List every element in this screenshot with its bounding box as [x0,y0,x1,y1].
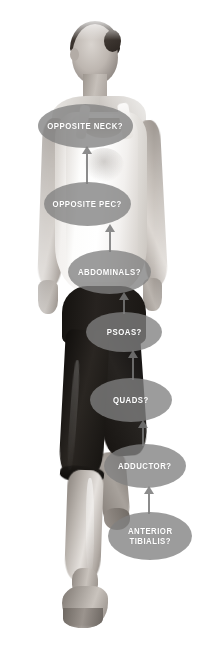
arrow-head-icon [105,224,115,232]
bubble-anterior-tibialis[interactable]: ANTERIOR TIBIALIS? [108,512,192,560]
annotation-layer: OPPOSITE NECK?OPPOSITE PEC?ABDOMINALS?PS… [0,0,210,659]
bubble-label-anterior-tibialis: ANTERIOR TIBIALIS? [128,526,173,546]
bubble-adductor[interactable]: ADDUCTOR? [104,444,186,488]
bubble-label-psoas: PSOAS? [106,327,141,337]
arrow-pec-to-neck-arrow-icon [82,146,92,184]
bubble-psoas[interactable]: PSOAS? [86,312,162,352]
arrow-shaft [148,494,150,514]
arrow-shaft [86,154,88,184]
muscle-chain-diagram: OPPOSITE NECK?OPPOSITE PEC?ABDOMINALS?PS… [0,0,210,659]
arrow-abdominals-to-pec-arrow-icon [105,224,115,252]
bubble-quads[interactable]: QUADS? [90,378,172,422]
arrow-tibialis-to-adductor-arrow-icon [144,486,154,514]
bubble-opposite-pec[interactable]: OPPOSITE PEC? [44,182,131,226]
bubble-opposite-neck[interactable]: OPPOSITE NECK? [38,104,133,148]
bubble-label-opposite-neck: OPPOSITE NECK? [48,121,124,131]
bubble-label-abdominals: ABDOMINALS? [78,267,141,277]
arrow-adductor-to-quads-arrow-icon [138,420,148,446]
arrow-quads-to-psoas-arrow-icon [128,350,138,380]
arrow-shaft [132,358,134,380]
bubble-label-quads: QUADS? [113,395,149,405]
bubble-abdominals[interactable]: ABDOMINALS? [68,250,151,294]
bubble-label-adductor: ADDUCTOR? [118,461,172,471]
arrow-psoas-to-abdominals-arrow-icon [119,292,129,314]
arrow-shaft [109,232,111,252]
bubble-label-opposite-pec: OPPOSITE PEC? [53,199,122,209]
